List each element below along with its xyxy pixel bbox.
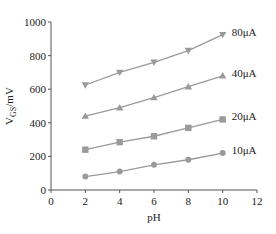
series-label: 40μA [232,67,257,79]
data-point-square [151,133,157,139]
x-tick-label: 0 [48,195,54,207]
series-label: 20μA [232,110,257,122]
data-point-square [185,125,191,131]
series-label: 80μA [232,26,257,38]
data-point-circle [151,162,157,168]
data-point-circle [117,169,123,175]
y-axis-title: VGS/mV [3,87,18,125]
data-point-triangle-up [219,72,226,78]
y-tick-label: 600 [30,83,47,95]
y-tick-label: 200 [30,150,47,162]
y-tick-label: 1000 [24,16,47,28]
x-axis-title: pH [147,211,161,223]
line-chart: 02468101202004006008001000pHVGS/mV10μA20… [0,0,276,234]
x-tick-label: 10 [217,195,229,207]
data-point-circle [185,157,191,163]
y-tick-label: 400 [30,117,47,129]
x-tick-label: 6 [151,195,157,207]
x-tick-label: 2 [83,195,89,207]
data-point-triangle-down [82,82,89,88]
y-tick-label: 800 [30,50,47,62]
x-tick-label: 12 [252,195,263,207]
y-tick-label: 0 [41,184,47,196]
data-point-circle [82,174,88,180]
data-point-square [219,116,225,122]
series-label: 10μA [232,144,257,156]
x-tick-label: 8 [186,195,192,207]
data-point-circle [220,150,226,156]
data-point-square [82,146,88,152]
data-point-square [116,139,122,145]
x-tick-label: 4 [117,195,123,207]
